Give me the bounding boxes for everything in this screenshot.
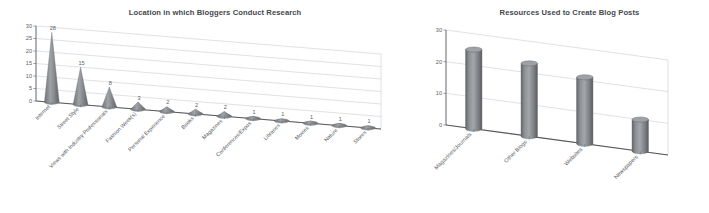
svg-text:Fashion Week(s): Fashion Week(s)	[104, 111, 137, 144]
svg-text:8: 8	[109, 80, 112, 86]
svg-text:1: 1	[368, 118, 371, 124]
svg-text:Magazines/Journals: Magazines/Journals	[433, 131, 473, 171]
svg-text:Other Blogs: Other Blogs	[503, 139, 528, 164]
svg-text:2: 2	[195, 102, 198, 108]
svg-text:Internet: Internet	[34, 103, 52, 121]
bars-right	[466, 47, 649, 154]
svg-text:Books: Books	[180, 115, 195, 130]
svg-text:Libraries: Libraries	[262, 122, 281, 141]
svg-text:2: 2	[224, 104, 227, 110]
charts-page: Location in which Bloggers Conduct Resea…	[0, 0, 709, 213]
svg-text:30: 30	[436, 27, 442, 33]
chart-right-plot: 0102030 Magazines/JournalsOther BlogsWeb…	[430, 0, 709, 213]
svg-text:30: 30	[26, 23, 32, 29]
chart-left-svg: 051015202530 28158322211111 InternetStre…	[0, 0, 430, 213]
svg-text:20: 20	[26, 48, 32, 54]
svg-text:10: 10	[436, 90, 442, 96]
svg-text:Movies: Movies	[293, 125, 310, 142]
chart-right-svg: 0102030 Magazines/JournalsOther BlogsWeb…	[430, 0, 709, 213]
chart-resources-blog-posts: Resources Used to Create Blog Posts 0102…	[430, 0, 709, 213]
svg-text:2: 2	[166, 99, 169, 105]
svg-text:25: 25	[26, 35, 32, 41]
svg-text:Nature: Nature	[323, 127, 339, 143]
svg-text:1: 1	[281, 111, 284, 117]
svg-text:0: 0	[439, 122, 442, 128]
gridlines-left	[36, 26, 381, 129]
svg-text:1: 1	[253, 109, 256, 115]
svg-text:Newspapers: Newspapers	[613, 154, 639, 180]
svg-text:28: 28	[50, 25, 56, 31]
svg-text:Street Style: Street Style	[56, 106, 80, 130]
svg-text:5: 5	[29, 85, 32, 91]
svg-text:3: 3	[138, 95, 141, 101]
svg-text:15: 15	[78, 60, 84, 66]
svg-text:0: 0	[29, 98, 32, 104]
svg-text:10: 10	[26, 73, 32, 79]
y-axis-ticks-left: 051015202530	[26, 23, 36, 104]
svg-text:15: 15	[26, 60, 32, 66]
svg-text:Conferences/Expos: Conferences/Expos	[215, 120, 253, 158]
svg-text:1: 1	[339, 116, 342, 122]
svg-text:Stores: Stores	[352, 129, 367, 144]
svg-text:Websites: Websites	[563, 146, 584, 167]
svg-text:1: 1	[310, 114, 313, 120]
svg-text:20: 20	[436, 59, 442, 65]
chart-location-bloggers-research: Location in which Bloggers Conduct Resea…	[0, 0, 430, 213]
chart-left-plot: 051015202530 28158322211111 InternetStre…	[0, 0, 430, 213]
svg-text:Magazines: Magazines	[201, 118, 224, 141]
svg-text:Views with Industry Profession: Views with Industry Professionals	[48, 108, 109, 169]
y-axis-ticks-right: 0102030	[436, 27, 446, 128]
